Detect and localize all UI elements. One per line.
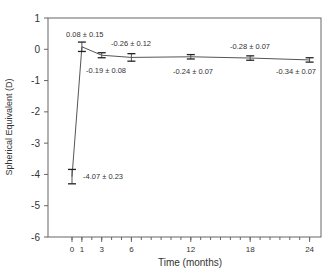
x-axis-label: Time (months) <box>158 257 222 268</box>
data-series <box>68 42 314 184</box>
x-tick-label: 3 <box>99 245 104 254</box>
data-label: -0.24 ± 0.07 <box>173 67 213 76</box>
data-label: 0.08 ± 0.15 <box>66 30 103 39</box>
y-tick-label: -3 <box>31 138 40 149</box>
y-tick-label: -5 <box>31 200 40 211</box>
plot-frame <box>48 18 321 237</box>
chart-svg: 10-1-2-3-4-5-6 0136121824 -4.07 ± 0.230.… <box>0 0 336 280</box>
y-axis-label: Spherical Equivalent (D) <box>4 78 14 175</box>
y-tick-label: -1 <box>31 75 40 86</box>
x-tick-label: 18 <box>246 245 255 254</box>
y-tick-label: -2 <box>31 106 40 117</box>
x-tick-label: 12 <box>186 245 195 254</box>
x-tick-label: 24 <box>305 245 314 254</box>
y-tick-label: -4 <box>31 169 40 180</box>
data-label: -0.19 ± 0.08 <box>86 66 126 75</box>
data-label: -0.26 ± 0.12 <box>111 39 151 48</box>
x-axis: 0136121824 <box>70 237 315 254</box>
x-tick-label: 0 <box>70 245 75 254</box>
x-tick-label: 6 <box>129 245 134 254</box>
plot-border <box>48 18 321 237</box>
y-tick-label: -6 <box>31 232 40 243</box>
y-tick-label: 0 <box>34 44 40 55</box>
x-tick-label: 1 <box>80 245 85 254</box>
chart: 10-1-2-3-4-5-6 0136121824 -4.07 ± 0.230.… <box>0 0 336 280</box>
data-label: -0.34 ± 0.07 <box>276 67 316 76</box>
data-label: -4.07 ± 0.23 <box>83 172 123 181</box>
data-label: -0.28 ± 0.07 <box>230 42 270 51</box>
y-tick-label: 1 <box>34 13 40 24</box>
y-axis: 10-1-2-3-4-5-6 <box>31 13 48 243</box>
